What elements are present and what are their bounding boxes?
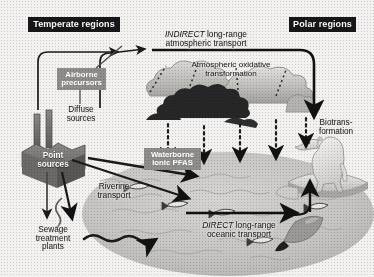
direct-line-2: oceanic transport — [207, 230, 271, 239]
biotransformation-line-2: formation — [319, 128, 353, 137]
pfas-transport-diagram: Temperate regions Polar regions INDIRECT… — [0, 0, 374, 277]
label-temperate-regions: Temperate regions — [28, 17, 120, 32]
label-sewage-treatment-plants: Sewage treatment plants — [24, 223, 82, 255]
point-line-2: sources — [37, 161, 68, 170]
label-diffuse-sources: Diffuse sources — [57, 104, 105, 126]
label-atmospheric-oxidative: Atmospheric oxidative transformation — [183, 59, 279, 81]
label-point-sources: Point sources — [27, 150, 79, 172]
airborne-line-2: precursors — [61, 79, 102, 87]
label-polar-regions: Polar regions — [289, 17, 356, 32]
diffuse-line-2: sources — [67, 115, 96, 124]
label-riverine-transport: Riverine transport — [86, 179, 142, 203]
riverine-line-2: transport — [97, 191, 130, 200]
label-direct-oceanic-transport: DIRECT long-range oceanic transport — [190, 219, 288, 241]
indirect-line-2: atmospheric transport — [166, 39, 247, 48]
sewage-line-3: plants — [42, 243, 64, 252]
label-indirect-transport: INDIRECT long-range atmospheric transpor… — [152, 28, 260, 50]
atmospheric-oxidative-line-2: transformation — [205, 70, 257, 79]
polar-regions-text: Polar regions — [293, 20, 352, 30]
label-biotransformation: Biotrans- formation — [309, 117, 363, 139]
label-airborne-precursors: Airborne precursors — [57, 68, 106, 90]
label-waterborne-ionic-pfas: Waterborne ionic PFAS — [144, 148, 201, 170]
waterborne-line-2: ionic PFAS — [152, 159, 193, 167]
temperate-regions-text: Temperate regions — [33, 20, 115, 30]
